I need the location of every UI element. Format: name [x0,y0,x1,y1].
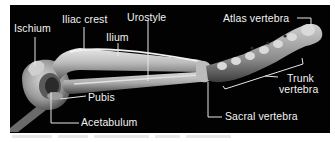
label-acetabulum: Acetabulum [81,117,137,128]
label-atlas-vertebra: Atlas vertebra [223,13,289,24]
label-ilium: Ilium [106,32,129,43]
caption-remnant [12,135,272,140]
label-trunk-vertebra-line2: vertebra [279,84,318,95]
label-urostyle: Urostyle [127,12,166,23]
label-pubis: Pubis [88,92,115,103]
label-iliac-crest: Iliac crest [62,14,107,25]
label-ischium: Ischium [14,23,51,34]
label-sacral-vertebra: Sacral vertebra [225,111,298,122]
anatomy-figure: Ischium Iliac crest Ilium Urostyle Atlas… [0,0,335,142]
